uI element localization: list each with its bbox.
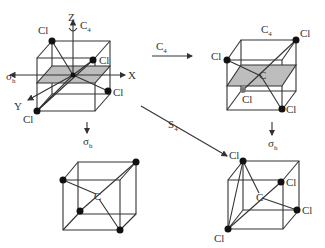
cl-label: Cl	[38, 25, 48, 36]
carbon-label: C	[256, 192, 263, 203]
sigma-h-left-arrow-label: σh	[83, 136, 92, 150]
cl-label: Cl	[300, 28, 310, 39]
cl-label: Cl	[286, 177, 296, 188]
cl-label: Cl	[229, 150, 239, 161]
s4-arrow	[141, 106, 227, 156]
panel-title-c4: C4	[261, 24, 272, 38]
carbon-label: C	[259, 70, 266, 81]
c4-axis-label: C4	[80, 20, 91, 34]
cl-label: Cl	[113, 87, 123, 98]
cl-label: Cl	[286, 104, 296, 115]
cl-label: Cl	[302, 205, 312, 216]
y-axis-label: Y	[14, 101, 22, 112]
cl-label: Cl	[99, 55, 109, 66]
cube-after-s4	[228, 161, 299, 229]
sigma-h-plane-label: σh	[6, 71, 15, 85]
cl-label: Cl	[214, 233, 224, 244]
z-axis-label: Z	[68, 12, 75, 23]
cl-label: Cl	[23, 114, 33, 125]
sigma-h-right-arrow-label: σh	[268, 138, 277, 152]
c4-arrow-label: C4	[156, 41, 167, 55]
s4-arrow-label: S4	[168, 119, 178, 133]
cl-label: Cl	[211, 51, 221, 62]
x-axis-label: X	[128, 70, 136, 81]
diagram-canvas	[0, 0, 325, 248]
carbon-label: C	[94, 191, 101, 202]
cl-label: Cl	[242, 94, 252, 105]
